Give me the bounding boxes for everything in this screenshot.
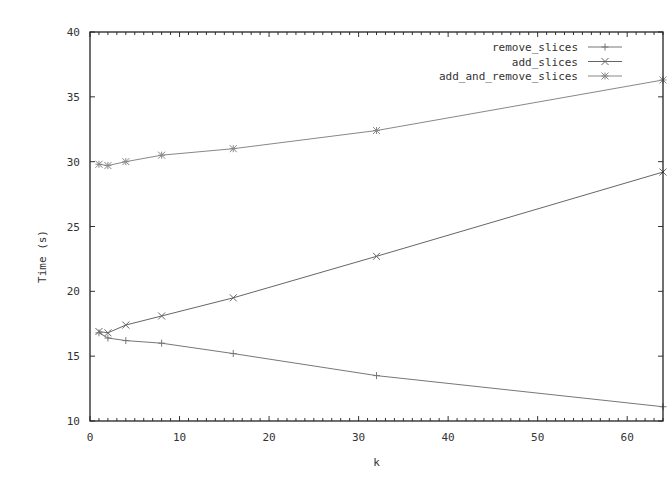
x-tick-label: 40 (442, 431, 455, 444)
y-tick-label: 20 (67, 285, 80, 298)
axis-ticks: 010203040506010152025303540 (67, 26, 663, 444)
legend-item: add_and_remove_slices (439, 70, 622, 83)
legend-item: remove_slices (492, 41, 622, 54)
y-tick-label: 15 (67, 350, 80, 363)
series-add-slices (95, 169, 666, 337)
x-tick-label: 0 (87, 431, 94, 444)
series-lines (95, 76, 666, 410)
x-tick-label: 30 (352, 431, 365, 444)
legend-label: add_slices (512, 56, 578, 69)
x-tick-label: 10 (173, 431, 186, 444)
x-tick-label: 50 (531, 431, 544, 444)
y-tick-label: 40 (67, 26, 80, 39)
y-tick-label: 10 (67, 415, 80, 428)
line-chart: 010203040506010152025303540 k Time (s) r… (0, 0, 668, 490)
series-add-and-remove-slices (95, 76, 666, 169)
plot-frame (90, 32, 663, 421)
legend: remove_slicesadd_slicesadd_and_remove_sl… (439, 41, 622, 83)
y-tick-label: 35 (67, 91, 80, 104)
x-axis-label: k (373, 456, 380, 469)
y-tick-label: 25 (67, 221, 80, 234)
legend-label: add_and_remove_slices (439, 70, 578, 83)
legend-item: add_slices (512, 56, 622, 69)
series-remove-slices (95, 329, 666, 410)
y-tick-label: 30 (67, 156, 80, 169)
legend-label: remove_slices (492, 41, 578, 54)
x-tick-label: 60 (621, 431, 634, 444)
y-axis-label: Time (s) (36, 230, 49, 283)
x-tick-label: 20 (262, 431, 275, 444)
